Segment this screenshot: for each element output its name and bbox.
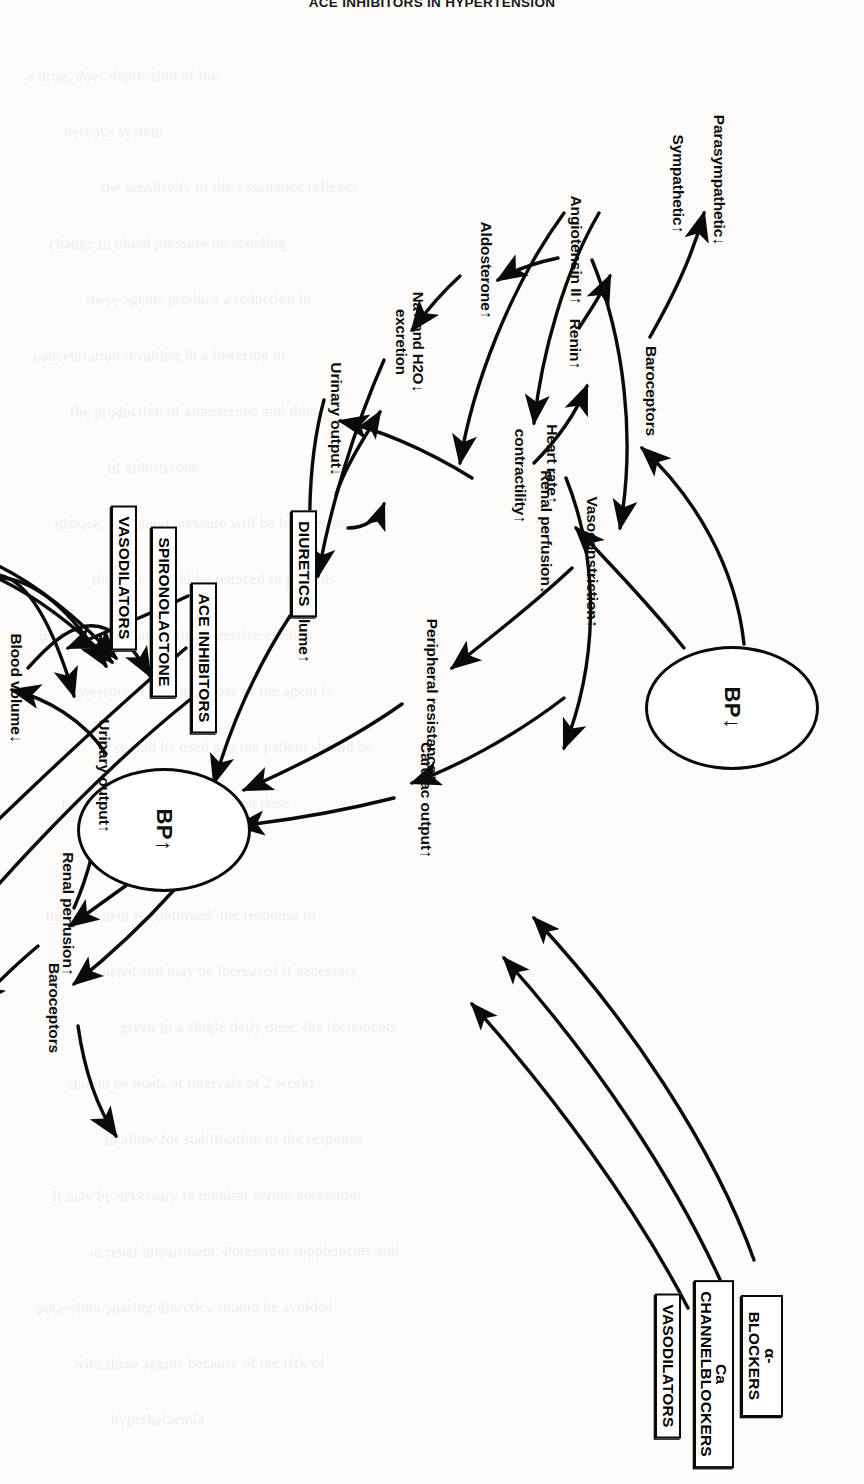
drug-box-diuretics[interactable]: DIURETICS xyxy=(291,510,317,617)
page-title: ACE INHIBITORS IN HYPERTENSION xyxy=(0,0,864,7)
arrow-up-icon: ↑ xyxy=(296,655,313,663)
bp-high-label: BP xyxy=(151,808,177,840)
arrow-up-icon: ↑ xyxy=(584,620,601,628)
drug-box-alpha-blockers[interactable]: α-BLOCKERS xyxy=(741,1295,783,1417)
label-blood-volume-bottom: Blood volume↓ xyxy=(8,633,25,742)
label-vasoconstriction-top: Vasoconstriction↑ xyxy=(584,496,601,627)
arrow-up-icon: ↑ xyxy=(60,968,77,976)
arrow-up-icon: ↑ xyxy=(512,515,529,523)
arrow-up-icon: ↑ xyxy=(670,226,687,234)
drug-box-ace-inhibitors[interactable]: ACE INHIBITORS xyxy=(191,582,217,733)
arrow-up-icon: ↑ xyxy=(567,361,584,369)
label-urinary-output-bottom: Urinary output↑ xyxy=(96,719,113,832)
drug-box-vasodilators-bottom[interactable]: VASODILATORS xyxy=(655,1294,681,1439)
node-bp-decreased: BP↓ xyxy=(645,646,819,770)
arrow-down-icon: ↓ xyxy=(409,384,426,392)
label-baroceptors-bottom: Baroceptors xyxy=(46,963,63,1053)
label-parasympathetic-top: Parasympathetic↓ xyxy=(711,115,728,245)
label-urinary-output-top: Urinary output↓ xyxy=(328,362,345,475)
arrow-up-icon: ↑ xyxy=(96,825,113,833)
label-renin-top: Renin↑ xyxy=(567,319,584,369)
label-baroceptors-top: Baroceptors xyxy=(643,346,660,436)
bp-low-arrow-icon: ↓ xyxy=(719,718,745,730)
bp-high-arrow-icon: ↑ xyxy=(151,840,177,852)
figure-rotation-wrapper: BP↓ BP↑ Baroceptors Parasympathetic↓ Sym… xyxy=(0,8,864,1478)
drug-box-spironolactone[interactable]: SPIRONOLACTONE xyxy=(151,527,177,698)
drug-box-vasodilators-mid[interactable]: VASODILATORS xyxy=(111,506,137,651)
arrow-up-icon: ↑ xyxy=(568,297,585,305)
label-aldosterone-top: Aldosterone↑ xyxy=(478,221,495,318)
label-contractility-top: contractility↑ xyxy=(512,429,529,523)
label-sympathetic-top: Sympathetic↑ xyxy=(670,135,687,234)
bp-low-label: BP xyxy=(719,686,745,718)
arrow-up-icon: ↑ xyxy=(478,311,495,319)
hypertension-feedback-diagram: BP↓ BP↑ Baroceptors Parasympathetic↓ Sym… xyxy=(0,8,864,1478)
arrow-down-icon: ↓ xyxy=(711,237,728,245)
label-angiotensin-ii-top: Angiotensin II↑ xyxy=(568,196,585,305)
label-cardiac-output-top: Cardiac output↑ xyxy=(418,742,435,858)
label-renal-perfusion-bottom: Renal perfusion↑ xyxy=(60,852,77,976)
arrow-down-icon: ↓ xyxy=(538,586,555,594)
label-renal-perfusion-top: Renal perfusion↓ xyxy=(538,470,555,594)
arrow-up-icon: ↑ xyxy=(418,850,435,858)
arrow-down-icon: ↓ xyxy=(8,735,25,743)
label-na-h2o-excretion-top: Na+ and H2O↓excretion xyxy=(393,292,426,393)
arrow-down-icon: ↓ xyxy=(328,468,345,476)
drug-box-ca-channel-blockers[interactable]: Ca CHANNELBLOCKERS xyxy=(694,1280,734,1468)
